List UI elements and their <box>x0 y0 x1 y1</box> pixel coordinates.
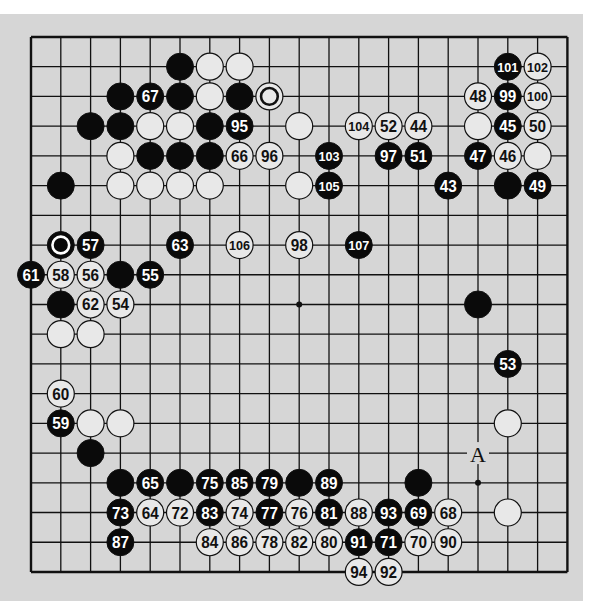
white-stone-44: 44 <box>405 113 432 140</box>
move-number: 63 <box>172 237 189 254</box>
move-number: 75 <box>201 475 218 492</box>
move-number: 46 <box>499 148 516 165</box>
move-number: 82 <box>291 534 308 551</box>
black-stone <box>107 261 134 288</box>
stone-body <box>226 53 253 80</box>
stone-body <box>167 469 194 496</box>
move-number: 58 <box>52 267 69 284</box>
move-number: 88 <box>350 505 367 522</box>
white-stone <box>494 410 521 437</box>
black-stone-93: 93 <box>375 499 402 526</box>
black-stone <box>196 142 223 169</box>
stone-body <box>196 142 223 169</box>
black-stone-89: 89 <box>316 469 343 496</box>
move-number: 74 <box>231 505 248 522</box>
move-number: 105 <box>319 179 340 194</box>
stone-body <box>286 172 313 199</box>
black-stone-87: 87 <box>107 529 134 556</box>
black-stone <box>47 172 74 199</box>
stone-body <box>107 469 134 496</box>
stone-body <box>494 410 521 437</box>
move-number: 50 <box>529 118 546 135</box>
white-stone <box>196 172 223 199</box>
black-stone <box>107 469 134 496</box>
move-number: 48 <box>470 88 487 105</box>
stone-body <box>137 113 164 140</box>
black-stone-51: 51 <box>405 142 432 169</box>
white-stone <box>167 113 194 140</box>
move-number: 64 <box>142 505 159 522</box>
move-number: 89 <box>321 475 338 492</box>
stone-body <box>47 172 74 199</box>
black-stone-49: 49 <box>524 172 551 199</box>
stone-body <box>286 469 313 496</box>
black-stone-91: 91 <box>345 529 372 556</box>
stone-body <box>77 410 104 437</box>
black-stone <box>196 113 223 140</box>
go-diagram-page: 6795576361551019945103975147105434910753… <box>0 14 583 601</box>
move-number: 45 <box>499 118 516 135</box>
white-stone-102: 102 <box>524 53 551 80</box>
move-number: 55 <box>142 267 159 284</box>
white-stone-58: 58 <box>47 261 74 288</box>
black-stone-67: 67 <box>137 83 164 110</box>
move-number: 73 <box>112 505 129 522</box>
white-stone <box>167 172 194 199</box>
white-stone-78: 78 <box>256 529 283 556</box>
stone-body <box>524 142 551 169</box>
white-stone <box>137 172 164 199</box>
stone-body <box>47 321 74 348</box>
move-number: 107 <box>348 238 369 253</box>
move-number: 98 <box>291 237 308 254</box>
white-stone-46: 46 <box>494 142 521 169</box>
move-number: 72 <box>172 505 189 522</box>
stone-body <box>47 291 74 318</box>
white-stone-98: 98 <box>286 232 313 259</box>
white-stone <box>107 172 134 199</box>
black-stone-53: 53 <box>494 350 521 377</box>
stone-body <box>107 142 134 169</box>
white-stone-64: 64 <box>137 499 164 526</box>
black-stone-77: 77 <box>256 499 283 526</box>
move-number: 96 <box>261 148 278 165</box>
black-stone <box>77 113 104 140</box>
black-stone <box>286 469 313 496</box>
move-number: 76 <box>291 505 308 522</box>
stone-body <box>405 469 432 496</box>
white-stone-50: 50 <box>524 113 551 140</box>
black-stone <box>465 291 492 318</box>
black-stone-47: 47 <box>465 142 492 169</box>
white-stone-80: 80 <box>316 529 343 556</box>
black-stone-65: 65 <box>137 469 164 496</box>
white-stone-88: 88 <box>345 499 372 526</box>
move-number: 80 <box>321 534 338 551</box>
move-number: 66 <box>231 148 248 165</box>
black-stone <box>77 440 104 467</box>
stone-body <box>167 113 194 140</box>
go-board: 6795576361551019945103975147105434910753… <box>0 14 583 601</box>
move-number: 85 <box>231 475 248 492</box>
move-number: 70 <box>410 534 427 551</box>
move-number: 61 <box>23 267 40 284</box>
move-number: 43 <box>440 178 457 195</box>
white-stone <box>524 142 551 169</box>
black-stone-79: 79 <box>256 469 283 496</box>
white-stone <box>256 83 283 110</box>
star-point <box>475 480 481 486</box>
white-stone-60: 60 <box>47 380 74 407</box>
black-stone-95: 95 <box>226 113 253 140</box>
white-stone-62: 62 <box>77 291 104 318</box>
stone-body <box>167 172 194 199</box>
white-stone-56: 56 <box>77 261 104 288</box>
white-stone-54: 54 <box>107 291 134 318</box>
stone-body <box>107 172 134 199</box>
move-number: 68 <box>440 505 457 522</box>
move-number: 90 <box>440 534 457 551</box>
stone-body <box>196 113 223 140</box>
stone-body <box>167 83 194 110</box>
white-stone <box>137 113 164 140</box>
point-labels: A <box>467 442 489 467</box>
white-stone <box>494 499 521 526</box>
move-number: 44 <box>410 118 427 135</box>
black-stone <box>107 113 134 140</box>
